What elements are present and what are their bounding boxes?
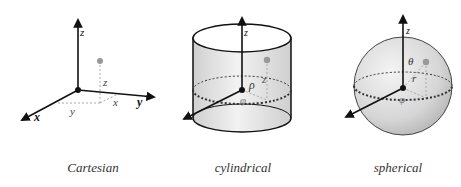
x-axis-label: x	[33, 110, 40, 124]
y-axis-label: y	[135, 95, 143, 109]
projection-guides	[58, 61, 120, 103]
spherical-panel: z θ r φ	[300, 0, 461, 150]
axes	[22, 20, 154, 120]
caption-cylindrical: cylindrical	[178, 160, 308, 176]
phi-label: φ	[240, 94, 246, 106]
cylindrical-diagram: z ρ φ z	[150, 0, 310, 150]
cartesian-panel: z y x z x y	[0, 0, 160, 150]
x-coordinate-label: x	[112, 96, 118, 108]
phi-label: φ	[399, 93, 405, 105]
caption-spherical: spherical	[333, 160, 461, 176]
r-label: r	[412, 72, 417, 84]
cylindrical-panel: z ρ φ z	[150, 0, 310, 150]
point-dot	[423, 59, 429, 65]
z-coordinate-label: z	[102, 76, 108, 88]
z-axis-label: z	[243, 27, 248, 38]
z-axis-label: z	[79, 26, 85, 38]
z-axis-label: z	[405, 25, 410, 36]
point-dot	[97, 58, 103, 64]
point-dot	[264, 57, 270, 63]
theta-label: θ	[408, 55, 414, 67]
z-coordinate-label: z	[261, 73, 267, 85]
origin-dot	[400, 85, 406, 91]
y-coordinate-label: y	[69, 105, 75, 117]
origin-dot	[239, 87, 245, 93]
spherical-diagram: z θ r φ	[300, 0, 461, 150]
origin-dot	[75, 87, 81, 93]
cartesian-diagram: z y x z x y	[0, 0, 160, 150]
rho-label: ρ	[248, 78, 255, 92]
caption-cartesian: Cartesian	[28, 160, 158, 176]
